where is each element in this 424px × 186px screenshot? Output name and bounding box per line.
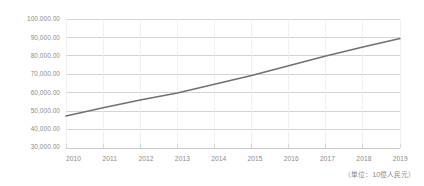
y-tick-label: 90,000.00 [31, 34, 61, 41]
y-tick-label: 40,000.00 [31, 125, 61, 132]
x-tick-label: 2010 [66, 155, 81, 162]
y-tick-label: 80,000.00 [31, 52, 61, 59]
y-axis-tick-labels: 100,000.00 90,000.00 80,000.00 70,000.00… [27, 15, 60, 150]
x-tick-label: 2018 [356, 155, 371, 162]
x-tick-label: 2019 [393, 155, 408, 162]
x-tick-label: 2012 [139, 155, 154, 162]
data-series-line [66, 38, 400, 116]
x-tick-label: 2013 [175, 155, 190, 162]
x-tick-label: 2014 [211, 155, 226, 162]
unit-annotation: （単位：10億人民元） [344, 170, 415, 179]
x-axis-tick-labels: 2010 2011 2012 2013 2014 2015 2016 2017 … [66, 155, 408, 162]
x-tick-label: 2011 [103, 155, 118, 162]
horizontal-gridlines [66, 19, 400, 148]
chart-canvas: 100,000.00 90,000.00 80,000.00 70,000.00… [0, 0, 424, 186]
x-axis-tick-marks [66, 144, 400, 149]
line-chart: 100,000.00 90,000.00 80,000.00 70,000.00… [0, 0, 424, 186]
vertical-gridlines [66, 19, 400, 148]
y-tick-label: 100,000.00 [27, 15, 60, 22]
x-tick-label: 2015 [247, 155, 262, 162]
y-tick-label: 30,000.00 [31, 143, 61, 150]
x-tick-label: 2017 [320, 155, 335, 162]
y-tick-label: 70,000.00 [31, 70, 61, 77]
x-tick-label: 2016 [284, 155, 299, 162]
y-tick-label: 60,000.00 [31, 89, 61, 96]
y-tick-label: 50,000.00 [31, 107, 61, 114]
